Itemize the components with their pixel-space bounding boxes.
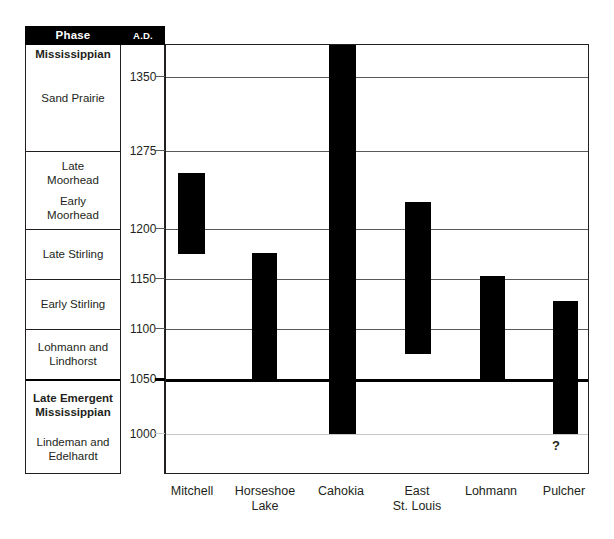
gridline (166, 77, 588, 78)
phase-label-line: Lindeman and (37, 435, 110, 449)
y-axis-tick-mark (155, 150, 165, 151)
column-header-phase: Phase (25, 26, 121, 45)
phase-label-line: Mississippian (35, 405, 110, 419)
phase-cell: Late EmergentMississippian (26, 381, 120, 429)
phase-label-line: Early (60, 194, 86, 208)
phase-cell: Lindeman andEdelhardt (26, 425, 120, 473)
phase-label-line: Lohmann and (38, 340, 108, 354)
phase-cell: Sand Prairie (26, 45, 120, 151)
y-axis-tick-label: 1000 (121, 427, 165, 441)
bar-cahokia (329, 45, 356, 434)
phase-label-line: Sand Prairie (41, 91, 104, 105)
x-axis-label-line: Lake (210, 499, 320, 514)
phase-label-line: Edelhardt (48, 449, 97, 463)
phase-cell: EarlyMoorhead (26, 188, 120, 227)
phase-label-line: Lindhorst (49, 354, 96, 368)
gridline (166, 279, 588, 280)
phase-label-line: Late (62, 159, 84, 173)
column-header-ad: A.D. (121, 26, 165, 45)
y-axis-tick-mark (155, 433, 165, 434)
bar-mitchell (178, 173, 205, 254)
table-header: Phase A.D. (25, 26, 165, 45)
y-axis-tick-mark (155, 76, 165, 77)
bar-east-st-louis (405, 202, 431, 354)
phase-cell: LateMoorhead (26, 153, 120, 192)
phase-divider (26, 379, 120, 381)
y-axis-tick-mark (155, 278, 165, 279)
gridline (166, 434, 588, 435)
bar-lohmann (480, 276, 505, 380)
x-axis-label: Pulcher (509, 484, 614, 499)
phase-divider (26, 151, 120, 152)
y-axis-tick-mark (155, 228, 165, 229)
ad-column-body: 1350127512001150110010501000 (121, 45, 165, 474)
phase-cell: Lohmann andLindhorst (26, 329, 120, 379)
plot-area (165, 44, 589, 474)
phase-cell: Late Stirling (26, 229, 120, 279)
gridline (166, 329, 588, 330)
phase-label-line: Moorhead (47, 173, 99, 187)
phase-divider (26, 279, 120, 280)
bar-horseshoe-lake (252, 253, 277, 380)
phase-column-body: MississippianSand PrairieLateMoorheadEar… (25, 45, 121, 474)
bar-pulcher (553, 301, 578, 434)
y-axis-tick-label: 1275 (121, 144, 165, 158)
phase-label-line: Late Stirling (43, 247, 104, 261)
chronology-chart-figure: Phase A.D. MississippianSand PrairieLate… (0, 0, 614, 539)
gridline (166, 379, 588, 382)
gridline (166, 229, 588, 230)
y-axis-tick-label: 1200 (121, 222, 165, 236)
phase-label-line: Late Emergent (33, 391, 113, 405)
y-axis-tick-label: 1150 (121, 272, 165, 286)
phase-table: Phase A.D. MississippianSand PrairieLate… (25, 26, 165, 474)
phase-divider (26, 229, 120, 230)
phase-cell: Early Stirling (26, 279, 120, 329)
phase-label-line: Moorhead (47, 208, 99, 222)
uncertainty-question-mark: ? (552, 438, 560, 453)
gridline (166, 151, 588, 152)
y-axis-tick-mark (155, 328, 165, 329)
x-axis-label-line: Pulcher (509, 484, 614, 499)
y-axis-tick-label: 1100 (121, 322, 165, 336)
phase-divider (26, 329, 120, 330)
y-axis-tick-label: 1350 (121, 70, 165, 84)
y-axis-tick-mark (155, 378, 165, 381)
x-axis-label-line: St. Louis (362, 499, 472, 514)
phase-label-line: Early Stirling (41, 297, 106, 311)
